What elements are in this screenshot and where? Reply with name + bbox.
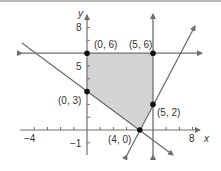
point-0-3 <box>84 89 90 95</box>
tick-label-y-8: 8 <box>76 22 82 33</box>
point-4-0 <box>137 127 143 133</box>
point-label-5-2: (5, 2) <box>157 107 180 118</box>
feasible-region <box>87 53 153 130</box>
point-label-4-0: (4, 0) <box>108 134 131 145</box>
point-label-0-3: (0, 3) <box>58 95 81 106</box>
point-5-2 <box>150 102 156 108</box>
x-axis-label: x <box>203 133 210 144</box>
point-0-6 <box>84 50 90 56</box>
tick-label-y-5: 5 <box>76 61 82 72</box>
tick-label-x-8: 8 <box>189 133 195 144</box>
point-label-0-6: (0, 6) <box>94 39 117 50</box>
tick-label-x-neg4: −4 <box>24 133 36 144</box>
tick-label-y-neg1: −1 <box>70 138 82 149</box>
feasible-region-chart: y x 8 5 −1 −4 8 (0, 6) (5, 6) (0, 3) (5,… <box>0 0 221 171</box>
point-5-6 <box>150 50 156 56</box>
x-axis <box>20 127 200 130</box>
y-axis-label: y <box>77 8 84 19</box>
point-label-5-6: (5, 6) <box>129 39 152 50</box>
